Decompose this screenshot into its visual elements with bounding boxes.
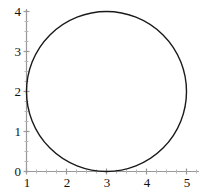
y-tick-label-4: 4	[5, 5, 21, 18]
x-tick-label-5: 5	[177, 176, 197, 189]
x-tick-label-2: 2	[57, 176, 77, 189]
plot-svg	[0, 0, 204, 192]
x-tick-label-4: 4	[137, 176, 157, 189]
x-tick-label-3: 3	[97, 176, 117, 189]
chart-canvas: 4 3 2 1 0 1 2 3 4 5	[0, 0, 204, 192]
y-tick-label-1: 1	[5, 125, 21, 138]
circle-curve	[27, 12, 187, 172]
y-tick-label-3: 3	[5, 45, 21, 58]
x-tick-label-1: 1	[17, 176, 37, 189]
y-tick-label-2: 2	[5, 85, 21, 98]
